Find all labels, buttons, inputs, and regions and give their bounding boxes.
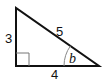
side-label-bottom: 4 bbox=[51, 67, 58, 80]
side-label-hypotenuse: 5 bbox=[56, 24, 63, 39]
angle-label: b bbox=[69, 51, 76, 66]
side-label-left: 3 bbox=[5, 31, 12, 46]
right-angle-marker bbox=[16, 53, 29, 66]
right-triangle-diagram: 3 5 4 b bbox=[0, 0, 103, 80]
